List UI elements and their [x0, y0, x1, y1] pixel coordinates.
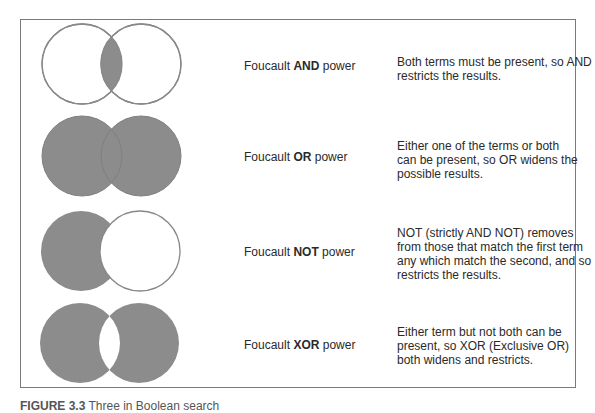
label-or: Foucault OR power: [244, 150, 347, 164]
description-not: NOT (strictly AND NOT) removes from thos…: [397, 226, 577, 282]
description-or: Either one of the terms or both can be p…: [397, 139, 577, 181]
operator-not: NOT: [293, 245, 318, 259]
label-xor: Foucault XOR power: [244, 338, 355, 352]
venn-not: [41, 211, 180, 291]
figure-caption: FIGURE 3.3 Three in Boolean search: [20, 399, 219, 413]
operator-or: OR: [293, 150, 311, 164]
label-not: Foucault NOT power: [244, 245, 355, 259]
venn-or: [42, 116, 181, 196]
operator-and: AND: [293, 59, 319, 73]
venn-xor: [40, 303, 179, 383]
description-and: Both terms must be present, so AND restr…: [397, 55, 577, 83]
label-and: Foucault AND power: [244, 59, 355, 73]
venn-and: [42, 24, 181, 104]
description-xor: Either term but not both can be present,…: [397, 325, 577, 367]
operator-xor: XOR: [293, 338, 319, 352]
